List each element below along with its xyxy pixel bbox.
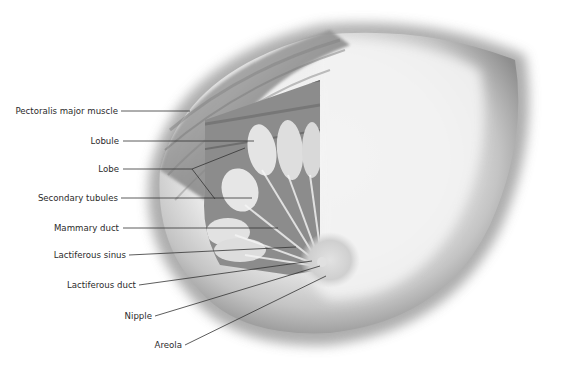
label-areola: Areola [155, 340, 182, 350]
anatomy-figure: Pectoralis major muscle Lobule Lobe Seco… [0, 0, 562, 380]
label-mammary-duct: Mammary duct [54, 223, 119, 233]
label-lobule: Lobule [91, 136, 119, 146]
label-nipple: Nipple [125, 311, 152, 321]
label-lactiferous-duct: Lactiferous duct [67, 280, 136, 290]
label-lobe: Lobe [98, 164, 119, 174]
label-lactiferous-sinus: Lactiferous sinus [54, 250, 126, 260]
leader-lines [0, 0, 562, 380]
label-pectoralis-major-muscle: Pectoralis major muscle [15, 106, 118, 116]
label-secondary-tubules: Secondary tubules [38, 193, 118, 203]
